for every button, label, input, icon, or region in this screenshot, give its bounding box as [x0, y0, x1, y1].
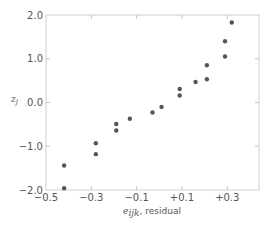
data-point — [193, 80, 197, 84]
data-point — [205, 77, 209, 81]
data-point — [223, 39, 227, 43]
data-point — [128, 116, 132, 120]
x-tick-label: −0.3 — [79, 192, 103, 203]
y-tick-label: 2.0 — [27, 10, 43, 21]
data-point — [150, 110, 154, 114]
data-point — [62, 163, 66, 167]
residual-normal-probability-plot: −0.5−0.3−0.1+0.1+0.3 2.01.00.0−1.0−2.0 z… — [0, 0, 273, 226]
x-axis-label: eijk, residual — [123, 206, 181, 218]
x-tick-label: +0.1 — [170, 192, 194, 203]
y-tick-label: −1.0 — [19, 141, 43, 152]
data-point — [205, 63, 209, 67]
data-point — [114, 128, 118, 132]
y-axis-label: zj — [10, 94, 19, 106]
y-tick-label: 1.0 — [27, 53, 43, 64]
data-point — [230, 20, 234, 24]
data-point — [94, 141, 98, 145]
data-point — [177, 87, 181, 91]
data-points — [62, 20, 234, 190]
data-point — [223, 54, 227, 58]
data-point — [159, 105, 163, 109]
x-tick-label: −0.1 — [124, 192, 148, 203]
y-axis-ticks: 2.01.00.0−1.0−2.0 — [19, 10, 259, 196]
data-point — [177, 93, 181, 97]
data-point — [114, 122, 118, 126]
data-point — [62, 186, 66, 190]
y-tick-label: 0.0 — [27, 97, 43, 108]
data-point — [94, 152, 98, 156]
x-tick-label: +0.3 — [215, 192, 239, 203]
y-tick-label: −2.0 — [19, 185, 43, 196]
x-axis-ticks: −0.5−0.3−0.1+0.1+0.3 — [34, 15, 240, 203]
